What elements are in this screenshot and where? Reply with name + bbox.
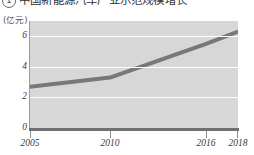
line-chart: 0246 2005201020162018 — [0, 18, 254, 155]
x-axis-tick — [206, 131, 207, 138]
y-axis-tick-labels: 0246 — [0, 18, 27, 133]
gridline — [30, 67, 238, 68]
x-axis-tick-label: 2018 — [229, 138, 248, 148]
gridline — [30, 36, 238, 37]
gridline — [30, 97, 238, 98]
x-axis-tick-label: 2005 — [21, 138, 40, 148]
x-axis-tick — [110, 131, 111, 138]
heading-row: 1中国新能源汽车产业示范规模增长 — [0, 0, 254, 9]
y-axis-line — [29, 21, 30, 131]
heading-title: 中国新能源汽车产业示范规模增长 — [19, 0, 187, 7]
x-axis-tick — [30, 131, 31, 138]
x-axis-tick-label: 2016 — [197, 138, 216, 148]
heading-text-wrapper: 1中国新能源汽车产业示范规模增长 — [2, 0, 187, 8]
x-axis-tick-label: 2010 — [101, 138, 120, 148]
plot-area — [30, 21, 238, 128]
x-axis-tick — [237, 131, 238, 138]
y-axis-tick-label: 0 — [1, 122, 27, 132]
y-axis-tick-label: 4 — [1, 61, 27, 71]
list-marker-circled-number: 1 — [2, 0, 16, 8]
x-axis-line — [29, 128, 239, 131]
y-axis-tick-label: 2 — [1, 91, 27, 101]
y-axis-tick-label: 6 — [1, 30, 27, 40]
